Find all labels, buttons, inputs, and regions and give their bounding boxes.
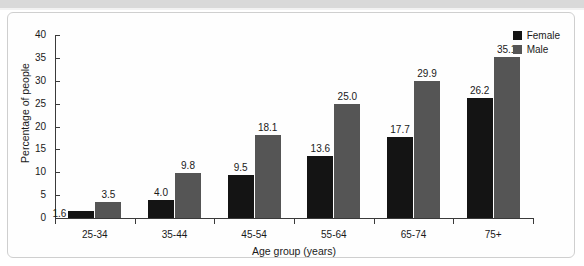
x-tick-mark bbox=[533, 219, 534, 224]
bar-value-label: 18.1 bbox=[248, 123, 288, 133]
legend-item-female[interactable]: Female bbox=[513, 30, 560, 41]
x-tick-mark bbox=[55, 219, 56, 224]
chart-panel: 0510152025303540 25-3435-4445-5455-6465-… bbox=[7, 12, 575, 258]
bar-value-label: 29.9 bbox=[407, 69, 447, 79]
x-tick-mark bbox=[214, 219, 215, 224]
bar-value-label: 1.6 bbox=[44, 209, 66, 219]
bar-female-65-74[interactable] bbox=[387, 137, 413, 218]
y-tick-label: 0 bbox=[8, 213, 46, 223]
bar-male-45-54[interactable] bbox=[255, 135, 281, 218]
bar-male-35-44[interactable] bbox=[175, 173, 201, 218]
bar-female-45-54[interactable] bbox=[228, 175, 254, 218]
bar-chart-figure: 0510152025303540 25-3435-4445-5455-6465-… bbox=[0, 0, 584, 266]
bar-male-75+[interactable] bbox=[494, 57, 520, 218]
x-axis-category-label: 75+ bbox=[453, 229, 533, 240]
legend-label-male: Male bbox=[527, 44, 549, 55]
x-tick-mark bbox=[135, 219, 136, 224]
x-tick-mark bbox=[374, 219, 375, 224]
x-axis-category-label: 25-34 bbox=[55, 229, 135, 240]
legend-label-female: Female bbox=[527, 30, 560, 41]
plot-area: 1.63.54.09.89.518.113.625.017.729.926.23… bbox=[55, 35, 533, 218]
x-axis-category-label: 55-64 bbox=[294, 229, 374, 240]
x-tick-mark bbox=[453, 219, 454, 224]
bar-value-label: 9.8 bbox=[168, 161, 208, 171]
x-tick-mark bbox=[294, 219, 295, 224]
x-axis-category-label: 35-44 bbox=[135, 229, 215, 240]
bar-male-25-34[interactable] bbox=[95, 202, 121, 218]
x-axis-category-label: 45-54 bbox=[214, 229, 294, 240]
bar-female-55-64[interactable] bbox=[307, 156, 333, 218]
scan-top-band bbox=[0, 0, 584, 8]
bar-value-label: 25.0 bbox=[327, 92, 367, 102]
legend: Female Male bbox=[513, 30, 560, 58]
x-axis-title: Age group (years) bbox=[55, 245, 533, 257]
female-swatch-icon bbox=[513, 31, 522, 40]
bar-female-35-44[interactable] bbox=[148, 200, 174, 218]
y-axis-title: Percentage of people bbox=[19, 23, 31, 203]
bar-value-label: 3.5 bbox=[88, 190, 128, 200]
legend-item-male[interactable]: Male bbox=[513, 44, 560, 55]
bar-male-55-64[interactable] bbox=[334, 104, 360, 218]
bar-female-75+[interactable] bbox=[467, 98, 493, 218]
scan-top-band-edge bbox=[0, 8, 584, 10]
bar-female-25-34[interactable] bbox=[68, 211, 94, 218]
male-swatch-icon bbox=[513, 45, 522, 54]
bar-male-65-74[interactable] bbox=[414, 81, 440, 218]
x-axis-category-label: 65-74 bbox=[374, 229, 454, 240]
